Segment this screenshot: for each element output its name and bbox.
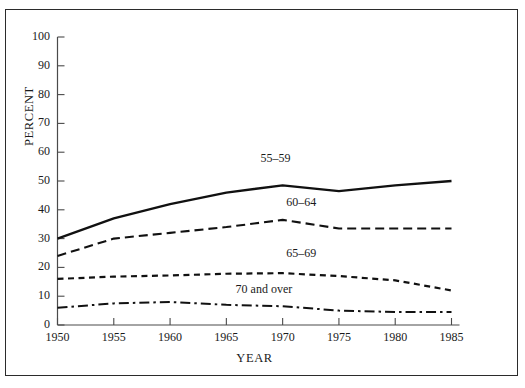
- figure-container: PERCENT YEAR 010203040506070809010019501…: [0, 0, 525, 388]
- x-axis-title: YEAR: [28, 351, 482, 366]
- series-line-3: [58, 302, 452, 312]
- series-label-3: 70 and over: [236, 282, 293, 297]
- y-tick-label: 50: [8, 173, 50, 188]
- y-tick-label: 70: [8, 115, 50, 130]
- y-tick-label: 60: [8, 144, 50, 159]
- x-tick-label: 1955: [84, 330, 144, 345]
- x-tick-label: 1965: [196, 330, 256, 345]
- y-tick-label: 40: [8, 202, 50, 217]
- series-line-1: [58, 220, 452, 256]
- x-tick-label: 1980: [365, 330, 425, 345]
- y-tick-label: 10: [8, 288, 50, 303]
- series-line-0: [58, 181, 452, 239]
- series-label-0: 55–59: [260, 151, 290, 166]
- x-tick-label: 1975: [309, 330, 369, 345]
- y-tick-label: 100: [8, 29, 50, 44]
- x-tick-label: 1970: [253, 330, 313, 345]
- x-tick-label: 1960: [140, 330, 200, 345]
- y-tick-label: 90: [8, 58, 50, 73]
- x-tick-label: 1950: [28, 330, 88, 345]
- series-label-2: 65–69: [286, 246, 316, 261]
- series-label-1: 60–64: [286, 195, 316, 210]
- x-tick-label: 1985: [422, 330, 482, 345]
- y-tick-label: 20: [8, 259, 50, 274]
- y-tick-label: 80: [8, 87, 50, 102]
- y-tick-label: 30: [8, 231, 50, 246]
